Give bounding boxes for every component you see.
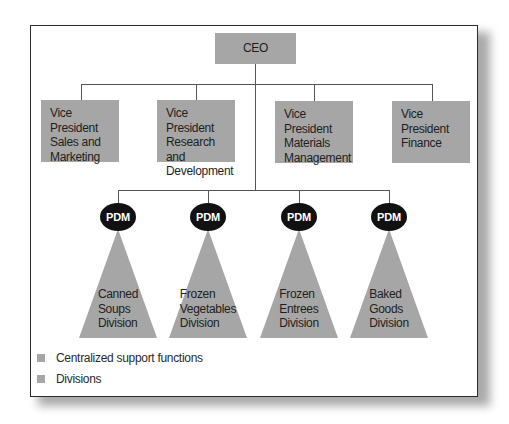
org-chart-frame: [30, 25, 478, 397]
division-label: Frozen Vegetables Division: [180, 287, 236, 331]
vp3-connector: [314, 84, 315, 101]
pdm2-connector: [208, 190, 209, 203]
division-frozen-vegetables: Frozen Vegetables Division: [169, 229, 247, 338]
vp4-connector: [432, 84, 433, 101]
pdm-oval-3: PDM: [281, 203, 317, 231]
pdm-label: PDM: [196, 211, 220, 223]
pdm-horizontal-connector: [118, 190, 390, 191]
division-canned-soups: Canned Soups Division: [79, 229, 157, 338]
pdm-label: PDM: [377, 211, 401, 223]
ceo-vertical-connector: [255, 64, 256, 190]
ceo-box: CEO: [215, 33, 296, 64]
pdm-oval-1: PDM: [100, 203, 136, 231]
division-label: Frozen Entrees Division: [279, 287, 319, 331]
vp2-connector: [196, 84, 197, 100]
ceo-label: CEO: [243, 41, 268, 56]
legend-item-support: Centralized support functions: [37, 351, 203, 365]
pdm3-connector: [299, 190, 300, 203]
division-baked-goods: Baked Goods Division: [350, 229, 428, 338]
division-label: Baked Goods Division: [369, 287, 409, 331]
division-frozen-entrees: Frozen Entrees Division: [260, 229, 338, 338]
legend-swatch-icon: [37, 375, 45, 383]
pdm-label: PDM: [287, 211, 311, 223]
pdm-oval-2: PDM: [190, 203, 226, 231]
vp-materials-management-box: Vice President Materials Management: [275, 101, 353, 163]
division-label: Canned Soups Division: [98, 287, 138, 331]
legend-label: Centralized support functions: [56, 351, 203, 365]
vp-horizontal-connector: [81, 84, 433, 85]
pdm1-connector: [118, 190, 119, 203]
pdm4-connector: [389, 190, 390, 203]
pdm-oval-4: PDM: [371, 203, 407, 231]
vp-finance-box: Vice President Finance: [392, 101, 470, 163]
legend-label: Divisions: [56, 372, 101, 386]
vp1-connector: [81, 84, 82, 100]
legend-item-divisions: Divisions: [37, 372, 101, 386]
legend-swatch-icon: [37, 354, 45, 362]
vp-sales-marketing-box: Vice President Sales and Marketing: [41, 100, 119, 162]
vp-research-development-box: Vice President Research and Development: [157, 100, 235, 162]
pdm-label: PDM: [106, 211, 130, 223]
